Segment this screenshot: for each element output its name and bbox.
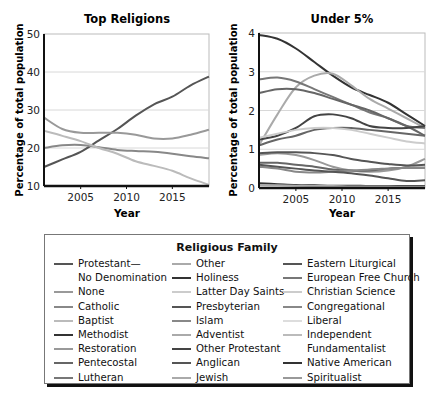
y-tick-label: 1 — [248, 143, 255, 155]
x-tick-label: 2005 — [283, 193, 310, 205]
legend-swatch-icon — [54, 291, 73, 293]
legend-item: Native American — [283, 356, 420, 370]
legend-label: Latter Day Saints — [196, 286, 284, 297]
legend-label: Native American — [307, 357, 392, 368]
legend-item: Protestant— — [54, 257, 167, 271]
legend-swatch-icon — [283, 291, 302, 293]
legend-item: Holiness — [172, 271, 284, 285]
legend-item: Lutheran — [54, 371, 167, 385]
legend-label: Pentecostal — [78, 357, 137, 368]
legend-swatch-icon — [283, 277, 302, 279]
y-tick-label: 4 — [248, 27, 255, 39]
x-axis-label: Year — [328, 207, 356, 219]
legend-label: Liberal — [307, 315, 342, 326]
legend-column-1: Protestant—No DenominationNoneCatholicBa… — [54, 257, 167, 385]
legend-swatch-icon — [172, 291, 191, 293]
legend-item: Baptist — [54, 314, 167, 328]
legend-item: Liberal — [283, 314, 420, 328]
legend-item: Catholic — [54, 300, 167, 314]
legend-item: Anglican — [172, 356, 284, 370]
legend-label: Jewish — [196, 372, 228, 383]
chart-under-5-percent: Under 5% 01234 200520102015 Percentage o… — [0, 0, 437, 230]
legend-column-2: OtherHolinessLatter Day SaintsPresbyteri… — [172, 257, 284, 385]
legend-label: Catholic — [78, 301, 119, 312]
legend-swatch-icon — [172, 377, 191, 379]
y-ticks: 01234 — [248, 27, 255, 194]
legend-item: Restoration — [54, 342, 167, 356]
y-axis-label: Percentage of total population — [228, 23, 239, 196]
legend-title: Religious Family — [45, 241, 409, 254]
legend-item: Spiritualist — [283, 371, 420, 385]
legend-swatch-icon — [54, 334, 73, 336]
legend-label: Restoration — [78, 343, 136, 354]
legend-label: Other — [196, 258, 225, 269]
y-tick-label: 0 — [248, 182, 255, 194]
legend-swatch-icon — [283, 334, 302, 336]
legend-item: Eastern Liturgical — [283, 257, 420, 271]
legend-item: Other — [172, 257, 284, 271]
legend-swatch-icon — [283, 306, 302, 308]
y-tick-label: 2 — [248, 105, 255, 117]
legend-label: Holiness — [196, 272, 239, 283]
legend-label: Islam — [196, 315, 223, 326]
legend-label: Methodist — [78, 329, 128, 340]
x-tick-label: 2010 — [329, 193, 356, 205]
legend-label: None — [78, 286, 105, 297]
legend-item: Latter Day Saints — [172, 285, 284, 299]
legend-label: European Free Church — [307, 272, 420, 283]
legend-label: Christian Science — [307, 286, 395, 297]
legend-swatch-icon — [172, 348, 191, 350]
legend-item: Fundamentalist — [283, 342, 420, 356]
legend-label: Other Protestant — [196, 343, 281, 354]
legend-item: None — [54, 285, 167, 299]
legend-label: Congregational — [307, 301, 385, 312]
legend-label: Independent — [307, 329, 372, 340]
legend-item: Christian Science — [283, 285, 420, 299]
legend-item: Independent — [283, 328, 420, 342]
legend-column-3: Eastern LiturgicalEuropean Free ChurchCh… — [283, 257, 420, 385]
legend-swatch-icon — [172, 306, 191, 308]
legend-item: No Denomination — [54, 271, 167, 285]
legend-item: Jewish — [172, 371, 284, 385]
x-tick-label: 2015 — [375, 193, 402, 205]
legend-label: Protestant— — [78, 258, 141, 269]
legend-item: Other Protestant — [172, 342, 284, 356]
legend-swatch-icon — [283, 362, 302, 364]
legend-swatch-icon — [54, 362, 73, 364]
legend-label: Baptist — [78, 315, 114, 326]
legend-item: European Free Church — [283, 271, 420, 285]
legend-item: Congregational — [283, 300, 420, 314]
chart-title: Under 5% — [311, 12, 374, 26]
legend-swatch-icon — [283, 377, 302, 379]
legend-swatch-icon — [54, 348, 73, 350]
legend-swatch-icon — [172, 320, 191, 322]
y-tick-label: 3 — [248, 66, 255, 78]
legend-swatch-icon — [172, 277, 191, 279]
legend: Religious Family Protestant—No Denominat… — [44, 234, 410, 384]
legend-item: Pentecostal — [54, 356, 167, 370]
legend-swatch-icon — [283, 263, 302, 265]
legend-label: Adventist — [196, 329, 244, 340]
legend-label: Lutheran — [78, 372, 124, 383]
legend-item: Adventist — [172, 328, 284, 342]
legend-swatch-icon — [54, 263, 73, 265]
legend-label: Eastern Liturgical — [307, 258, 396, 269]
legend-swatch-icon — [172, 263, 191, 265]
legend-swatch-icon — [172, 362, 191, 364]
legend-swatch-icon — [172, 334, 191, 336]
legend-label: Fundamentalist — [307, 343, 386, 354]
legend-label: No Denomination — [78, 272, 167, 283]
legend-item: Methodist — [54, 328, 167, 342]
legend-label: Presbyterian — [196, 301, 260, 312]
x-ticks: 200520102015 — [283, 188, 402, 205]
legend-swatch-icon — [54, 377, 73, 379]
legend-item: Islam — [172, 314, 284, 328]
legend-label: Anglican — [196, 357, 240, 368]
legend-swatch-icon — [283, 320, 302, 322]
legend-label: Spiritualist — [307, 372, 361, 383]
legend-item: Presbyterian — [172, 300, 284, 314]
legend-swatch-icon — [54, 320, 73, 322]
legend-swatch-icon — [54, 306, 73, 308]
